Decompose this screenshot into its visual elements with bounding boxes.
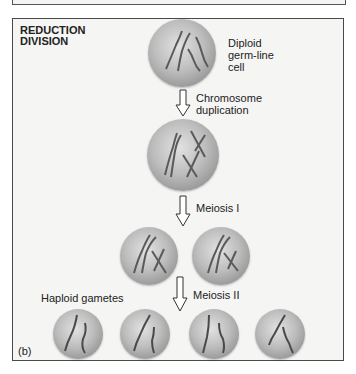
title-line-2: DIVISION (20, 36, 85, 47)
chromosomes-icon (148, 19, 216, 87)
gamete-2 (120, 309, 170, 359)
label-line: Chromosome (196, 92, 262, 104)
meiosis-1-cell-right (192, 227, 250, 285)
label-line: germ-line (228, 49, 274, 61)
duplicated-chromosomes-icon (147, 119, 219, 191)
down-arrow-icon (175, 195, 191, 227)
chromosomes-icon (120, 309, 170, 359)
diploid-cell-label: Diploid germ-line cell (228, 37, 274, 73)
gamete-1 (53, 309, 103, 359)
previous-panel-edge (12, 0, 346, 5)
down-arrow-icon (175, 89, 191, 117)
gamete-4 (255, 309, 305, 359)
diploid-germline-cell (148, 19, 216, 87)
gamete-3 (189, 309, 239, 359)
down-arrow-icon (172, 276, 188, 312)
haploid-gametes-label: Haploid gametes (41, 292, 124, 304)
label-line: cell (228, 61, 274, 73)
meiosis-1-label: Meiosis I (196, 202, 239, 214)
meiosis-2-label: Meiosis II (193, 289, 239, 301)
chromosomes-icon (189, 309, 239, 359)
meiosis-1-cell-left (120, 227, 178, 285)
panel-label: (b) (18, 345, 31, 357)
chromosomes-icon (192, 227, 250, 285)
duplicated-cell (147, 119, 219, 191)
duplication-label: Chromosome duplication (196, 92, 262, 116)
chromosomes-icon (53, 309, 103, 359)
label-line: Diploid (228, 37, 274, 49)
label-line: duplication (196, 104, 262, 116)
chromosomes-icon (120, 227, 178, 285)
panel-title: REDUCTION DIVISION (20, 25, 85, 47)
chromosomes-icon (255, 309, 305, 359)
